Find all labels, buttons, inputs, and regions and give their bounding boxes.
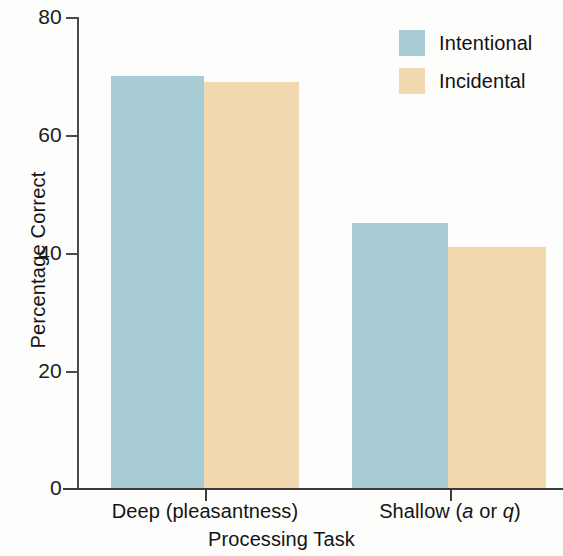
legend-label-incidental: Incidental xyxy=(439,71,526,91)
x-axis-label-shallow-q: q xyxy=(503,500,514,522)
bar-shallow-intentional xyxy=(352,223,448,488)
bar-deep-incidental xyxy=(204,82,299,488)
x-axis-label-shallow-mid: or xyxy=(474,500,503,522)
bar-shallow-incidental xyxy=(448,247,546,488)
x-axis-label-deep: Deep (pleasantness) xyxy=(85,500,325,522)
legend-item-intentional: Intentional xyxy=(399,30,532,56)
x-axis-label-shallow-post: ) xyxy=(514,500,521,522)
legend: Intentional Incidental xyxy=(399,30,532,106)
bar-chart: Percentage Correct 80 60 40 20 0 Deep (p… xyxy=(0,0,563,556)
legend-label-intentional: Intentional xyxy=(439,33,532,53)
legend-swatch-incidental xyxy=(399,68,425,94)
legend-swatch-intentional xyxy=(399,30,425,56)
legend-item-incidental: Incidental xyxy=(399,68,532,94)
x-axis-label-shallow: Shallow (a or q) xyxy=(330,500,563,522)
x-axis-label-shallow-a: a xyxy=(462,500,473,522)
bar-deep-intentional xyxy=(111,76,204,488)
x-axis-line xyxy=(63,488,563,490)
x-axis-label-shallow-pre: Shallow ( xyxy=(379,500,462,522)
x-axis-title: Processing Task xyxy=(0,528,563,550)
